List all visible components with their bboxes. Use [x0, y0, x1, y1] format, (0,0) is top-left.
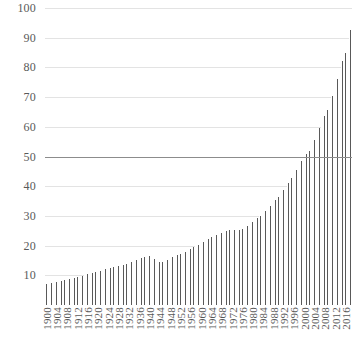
- y-axis-tick-label: 80: [24, 60, 36, 75]
- y-axis-tick-label: 90: [24, 30, 36, 45]
- y-axis-tick-label: 60: [24, 119, 36, 134]
- y-axis-tick-label: 10: [24, 268, 36, 283]
- y-axis-tick-label: 30: [24, 208, 36, 223]
- y-axis-tick-label: 20: [24, 238, 36, 253]
- bar-chart: 100908070605040302010 190019041908191219…: [0, 0, 354, 357]
- y-axis-tick-label: 50: [24, 149, 36, 164]
- bar-series: [45, 8, 352, 305]
- bar: [349, 30, 352, 305]
- y-axis: 100908070605040302010: [0, 0, 42, 310]
- x-axis-tick-label: 2016: [340, 307, 352, 330]
- x-axis: 1900190419081912191619201924192819321936…: [45, 305, 352, 357]
- y-axis-tick-label: 40: [24, 179, 36, 194]
- y-axis-tick-label: 100: [17, 1, 36, 16]
- plot-area: [45, 8, 352, 305]
- y-axis-tick-label: 70: [24, 90, 36, 105]
